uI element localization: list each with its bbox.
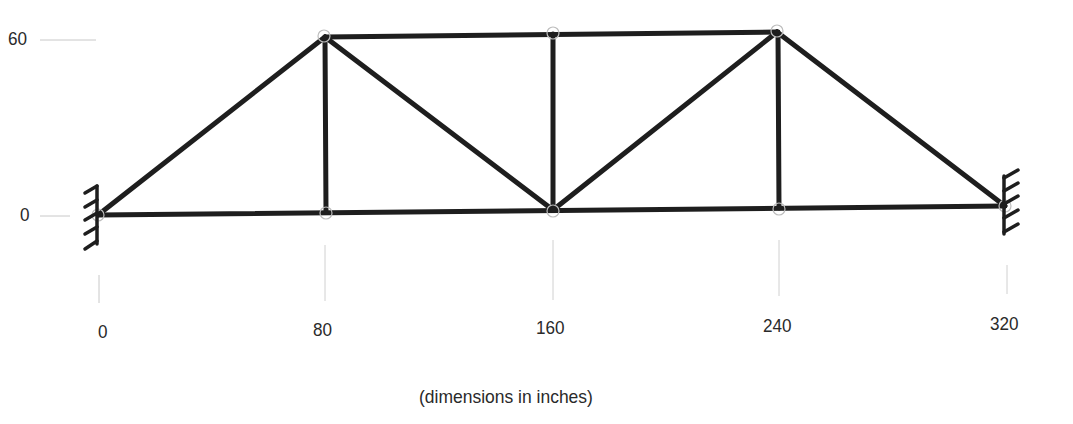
member-left-end-diagonal	[98, 37, 325, 215]
left-fixed-support-icon	[85, 186, 97, 249]
member-right-end-diagonal	[777, 32, 1005, 206]
member-vertical-240	[778, 32, 779, 208]
dimensions-caption: (dimensions in inches)	[419, 386, 593, 408]
x-tick-label-0: 0	[98, 321, 108, 343]
member-vertical-80	[325, 37, 326, 212]
member-diagonal-80-160	[325, 37, 553, 210]
y-tick-label-0: 0	[20, 204, 30, 226]
x-tick-label-240: 240	[763, 315, 792, 337]
truss-members	[98, 32, 1005, 215]
x-tick-label-80: 80	[313, 319, 332, 341]
x-tick-label-160: 160	[536, 317, 565, 339]
truss-diagram	[0, 0, 1073, 424]
y-tick-label-60: 60	[8, 28, 27, 50]
right-fixed-support-icon	[1004, 170, 1018, 234]
x-tick-label-320: 320	[990, 313, 1019, 335]
member-diagonal-160-240	[553, 32, 777, 210]
